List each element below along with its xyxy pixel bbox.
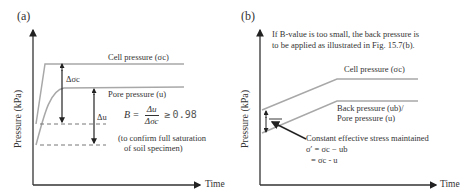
formula-threshold: 0.98 [173, 109, 197, 120]
panel-b-header-line1: If B-value is too small, the back pressu… [272, 29, 419, 39]
formula-fraction: Δu Δσc [145, 104, 159, 127]
panel-b-y-axis-label: Pressure (kPa) [239, 90, 250, 148]
formula-numerator: Δu [145, 104, 159, 116]
panel-b-x-axis-label: Time [440, 180, 460, 190]
panel-a-x-axis-label: Time [205, 180, 225, 190]
saturation-note-line2: of soil specimen) [124, 143, 183, 153]
formula-relation: ≥ [164, 109, 170, 120]
cell-pressure-label-b: Cell pressure (σc) [344, 65, 405, 74]
effective-stress-annotation-line3: = σc - u [311, 155, 338, 165]
panel-a-tag: (a) [17, 9, 30, 24]
effective-stress-annotation-line1: Constant effective stress maintained [306, 133, 429, 143]
saturation-note-line1: (to confirm full saturation [118, 133, 206, 143]
back-pressure-label: Back pressure (ub)/ [337, 104, 404, 113]
cell-pressure-label: Cell pressure (σc) [108, 53, 169, 62]
panel-b-arrows [266, 111, 306, 139]
panel-a-y-axis-label: Pressure (kPa) [12, 90, 23, 148]
b-value-formula: B = Δu Δσc ≥ 0.98 [124, 104, 197, 127]
effective-stress-annotation-line2: σ′ = σc − ub [306, 144, 347, 154]
formula-denominator: Δσc [145, 116, 159, 127]
panel-b-header-line2: to be applied as illustrated in Fig. 15.… [272, 40, 415, 50]
panel-b-tag: (b) [241, 9, 255, 24]
formula-lhs: B = [124, 109, 139, 120]
pore-pressure-label-b: Pore pressure (u) [337, 114, 395, 123]
delta-u-label: Δu [97, 113, 107, 122]
delta-sigma-label: Δσc [66, 75, 80, 84]
pore-pressure-label: Pore pressure (u) [108, 90, 166, 99]
